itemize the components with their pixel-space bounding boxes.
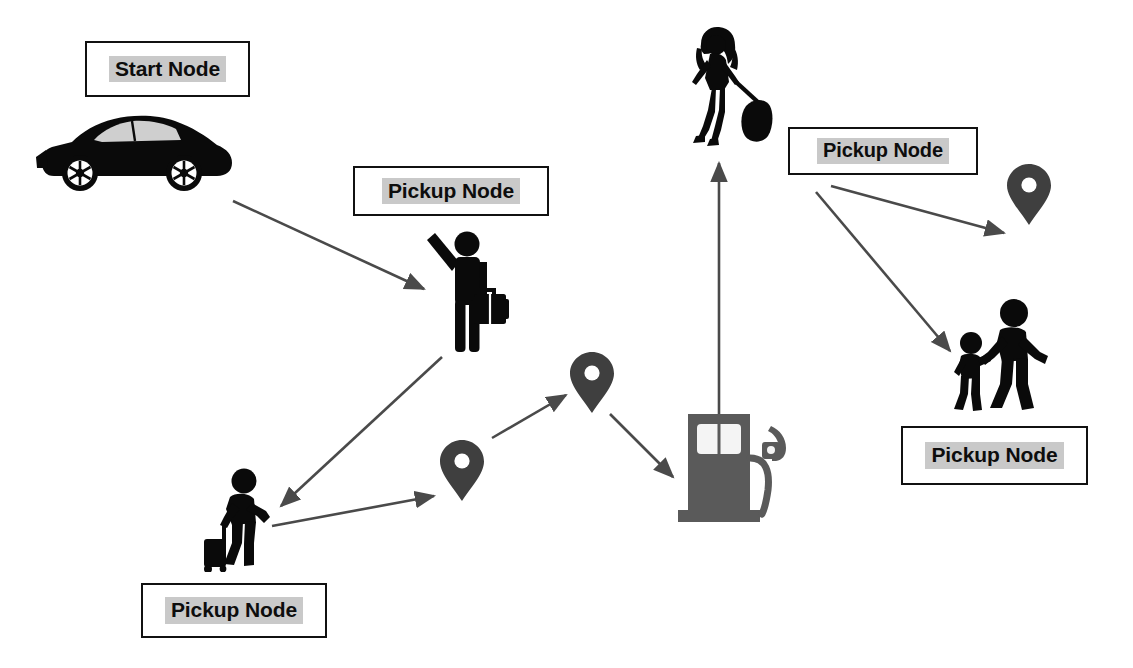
arrow-hailing-to-traveler [281,357,442,506]
label-text: Pickup Node [925,442,1063,469]
map-pin-icon[interactable] [570,352,614,414]
label-box-pickup-node-family[interactable]: Pickup Node [901,426,1088,485]
label-text: Pickup Node [382,178,520,205]
label-text: Pickup Node [817,138,949,163]
gas-pump-icon[interactable] [676,410,796,525]
adult-with-child-icon[interactable] [944,296,1059,418]
label-text: Start Node [109,56,226,83]
label-text: Pickup Node [165,597,303,624]
car-icon[interactable] [36,110,236,195]
arrow-pin-middle-to-pump [610,414,673,477]
traveler-with-suitcase-icon[interactable] [196,467,286,572]
label-box-pickup-node-woman[interactable]: Pickup Node [788,127,978,175]
label-box-pickup-node-traveler[interactable]: Pickup Node [141,583,327,638]
map-pin-icon[interactable] [440,440,484,502]
diagram-canvas: Start NodePickup NodePickup NodePickup N… [0,0,1133,668]
arrow-pin-lower-left-to-pin-middle [492,395,566,438]
woman-with-rolling-luggage-icon[interactable] [683,26,773,154]
person-hailing-with-briefcase-icon[interactable] [425,228,517,358]
arrow-woman-label-to-family [816,192,950,351]
label-box-pickup-node-driver[interactable]: Pickup Node [353,166,549,216]
arrow-traveler-to-pin-lower-left [272,496,434,526]
map-pin-icon[interactable] [1007,164,1051,226]
arrow-woman-label-to-pin-right [831,186,1004,233]
label-box-start-node[interactable]: Start Node [85,41,250,97]
